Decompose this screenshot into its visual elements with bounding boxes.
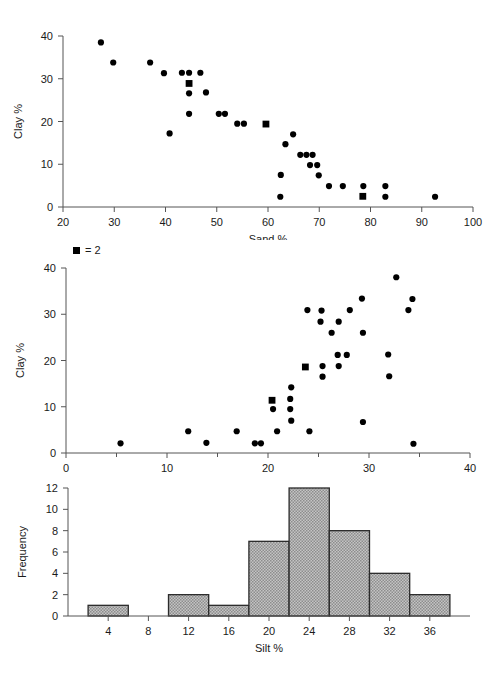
x-tick-label: 16 bbox=[223, 625, 235, 637]
y-axis-title: Frequency bbox=[16, 526, 28, 578]
y-tick-label: 8 bbox=[52, 525, 58, 537]
y-tick-label: 0 bbox=[52, 610, 58, 622]
x-tick-label: 70 bbox=[313, 216, 325, 228]
data-point bbox=[147, 59, 153, 65]
data-point bbox=[234, 428, 240, 434]
histogram-bar bbox=[370, 573, 410, 616]
data-point bbox=[405, 307, 411, 313]
clay-vs-silt-scatter-plot: = 2010203040010203040Silt %Clay % bbox=[0, 240, 500, 480]
y-tick-label: 30 bbox=[44, 308, 56, 320]
x-tick-label: 20 bbox=[57, 216, 69, 228]
data-point bbox=[359, 295, 365, 301]
data-point bbox=[360, 419, 366, 425]
data-point bbox=[309, 152, 315, 158]
data-point bbox=[278, 172, 284, 178]
y-tick-label: 12 bbox=[46, 482, 58, 494]
data-point bbox=[252, 440, 258, 446]
data-point bbox=[336, 319, 342, 325]
data-point-square bbox=[269, 397, 276, 404]
data-point bbox=[234, 121, 240, 127]
x-tick-label: 60 bbox=[262, 216, 274, 228]
x-tick-label: 20 bbox=[263, 625, 275, 637]
histogram-bar bbox=[329, 531, 369, 616]
data-point bbox=[382, 194, 388, 200]
x-tick-label: 0 bbox=[63, 462, 69, 474]
histogram-bar bbox=[289, 488, 329, 616]
y-tick-label: 4 bbox=[52, 567, 58, 579]
data-point bbox=[197, 70, 203, 76]
data-point-square bbox=[302, 364, 309, 371]
data-point bbox=[386, 373, 392, 379]
y-tick-label: 10 bbox=[41, 158, 53, 170]
y-tick-label: 20 bbox=[41, 116, 53, 128]
data-point bbox=[318, 307, 324, 313]
x-tick-label: 30 bbox=[108, 216, 120, 228]
x-tick-label: 100 bbox=[464, 216, 482, 228]
data-point bbox=[288, 418, 294, 424]
x-tick-label: 10 bbox=[161, 462, 173, 474]
data-point bbox=[222, 111, 228, 117]
data-point bbox=[216, 111, 222, 117]
x-tick-label: 30 bbox=[363, 462, 375, 474]
data-point bbox=[319, 363, 325, 369]
data-point bbox=[288, 384, 294, 390]
data-point bbox=[316, 172, 322, 178]
data-point bbox=[186, 90, 192, 96]
data-point bbox=[203, 89, 209, 95]
data-point bbox=[277, 194, 283, 200]
data-point bbox=[385, 351, 391, 357]
y-tick-label: 10 bbox=[44, 401, 56, 413]
legend-square-icon bbox=[73, 247, 80, 254]
data-point bbox=[326, 183, 332, 189]
data-point bbox=[306, 428, 312, 434]
data-point bbox=[347, 307, 353, 313]
y-tick-label: 0 bbox=[50, 447, 56, 459]
data-point bbox=[186, 111, 192, 117]
data-point bbox=[241, 121, 247, 127]
y-tick-label: 2 bbox=[52, 589, 58, 601]
x-tick-label: 36 bbox=[424, 625, 436, 637]
data-point bbox=[287, 396, 293, 402]
data-point bbox=[382, 183, 388, 189]
y-tick-label: 10 bbox=[46, 503, 58, 515]
data-point bbox=[110, 59, 116, 65]
x-tick-label: 40 bbox=[464, 462, 476, 474]
data-point bbox=[360, 183, 366, 189]
data-point bbox=[304, 307, 310, 313]
data-point bbox=[360, 330, 366, 336]
data-point bbox=[98, 39, 104, 45]
data-point bbox=[329, 330, 335, 336]
y-tick-label: 40 bbox=[44, 262, 56, 274]
data-point bbox=[432, 194, 438, 200]
y-tick-label: 0 bbox=[47, 201, 53, 213]
x-tick-label: 20 bbox=[262, 462, 274, 474]
data-point bbox=[314, 162, 320, 168]
x-tick-label: 80 bbox=[364, 216, 376, 228]
histogram-bar bbox=[169, 595, 209, 616]
figure-container: 2030405060708090100010203040Sand %Clay %… bbox=[0, 0, 500, 689]
x-tick-label: 8 bbox=[145, 625, 151, 637]
data-point bbox=[167, 130, 173, 136]
y-tick-label: 6 bbox=[52, 546, 58, 558]
x-tick-label: 28 bbox=[343, 625, 355, 637]
data-point bbox=[344, 352, 350, 358]
x-axis-title: Sand % bbox=[249, 233, 288, 240]
data-point-square bbox=[359, 193, 366, 200]
data-point bbox=[290, 131, 296, 137]
data-point bbox=[317, 319, 323, 325]
x-tick-label: 32 bbox=[383, 625, 395, 637]
data-point bbox=[203, 440, 209, 446]
panel-silt-histogram: 4812162024283236024681012Silt %Frequency bbox=[0, 476, 500, 689]
data-point bbox=[274, 428, 280, 434]
data-point bbox=[303, 152, 309, 158]
data-point bbox=[185, 428, 191, 434]
data-point bbox=[319, 374, 325, 380]
histogram-bar bbox=[209, 605, 249, 616]
data-point bbox=[340, 183, 346, 189]
silt-frequency-histogram-plot: 4812162024283236024681012Silt %Frequency bbox=[0, 476, 500, 689]
data-point bbox=[258, 440, 264, 446]
panel-clay-vs-silt: = 2010203040010203040Silt %Clay % bbox=[0, 240, 500, 480]
y-axis-title: Clay % bbox=[12, 104, 24, 139]
y-tick-label: 40 bbox=[41, 30, 53, 42]
data-point bbox=[336, 363, 342, 369]
